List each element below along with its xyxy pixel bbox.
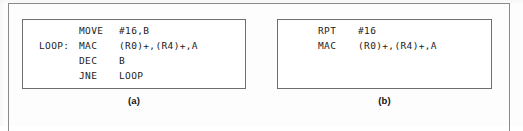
code-operands: B xyxy=(119,53,125,68)
panel-a-caption: (a) xyxy=(22,95,246,106)
code-label: LOOP: xyxy=(39,38,69,53)
panel-b-caption: (b) xyxy=(277,95,492,106)
code-mnemonic: MAC xyxy=(318,38,336,53)
code-operands: #16,B xyxy=(119,23,149,38)
code-line: DEC B xyxy=(23,53,245,68)
code-line: RPT #16 xyxy=(278,23,491,38)
code-mnemonic: MOVE xyxy=(79,23,103,38)
code-operands: #16 xyxy=(358,23,376,38)
figure-page: MOVE #16,B LOOP: MAC (R0)+,(R4)+,A DEC B… xyxy=(0,0,523,126)
code-mnemonic: JNE xyxy=(79,68,97,83)
code-listing-a: MOVE #16,B LOOP: MAC (R0)+,(R4)+,A DEC B… xyxy=(23,20,245,88)
code-mnemonic: MAC xyxy=(79,38,97,53)
code-line: MOVE #16,B xyxy=(23,23,245,38)
code-operands: (R0)+,(R4)+,A xyxy=(119,38,198,53)
code-line: LOOP: MAC (R0)+,(R4)+,A xyxy=(23,38,245,53)
code-mnemonic: DEC xyxy=(79,53,97,68)
code-line: MAC (R0)+,(R4)+,A xyxy=(278,38,491,53)
code-panel-a: MOVE #16,B LOOP: MAC (R0)+,(R4)+,A DEC B… xyxy=(22,19,246,89)
code-listing-b: RPT #16 MAC (R0)+,(R4)+,A xyxy=(278,20,491,88)
code-mnemonic: RPT xyxy=(318,23,336,38)
code-panel-b: RPT #16 MAC (R0)+,(R4)+,A xyxy=(277,19,492,89)
code-operands: LOOP xyxy=(119,68,143,83)
code-line: JNE LOOP xyxy=(23,68,245,83)
code-operands: (R0)+,(R4)+,A xyxy=(358,38,437,53)
